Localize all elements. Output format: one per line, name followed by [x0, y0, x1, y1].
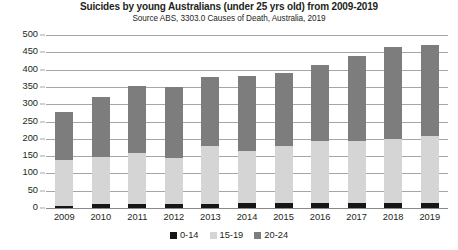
x-axis-tick-label: 2017 — [338, 212, 375, 223]
legend-swatch-icon — [254, 232, 261, 239]
bar-segment-20-24[interactable] — [311, 65, 329, 140]
chart-subtitle: Source ABS, 3303.0 Causes of Death, Aust… — [0, 13, 458, 24]
x-axis-tick-label: 2011 — [119, 212, 156, 223]
bar-segment-15-19[interactable] — [55, 160, 73, 205]
bar-segment-0-14[interactable] — [238, 203, 256, 208]
bar-segment-20-24[interactable] — [421, 45, 439, 136]
suicides-stacked-bar-chart: Suicides by young Australians (under 25 … — [0, 0, 458, 250]
legend-label: 15-19 — [220, 231, 244, 240]
y-axis-tick-label: 350 — [0, 82, 38, 91]
x-axis-tick-label: 2013 — [192, 212, 229, 223]
bar-group[interactable] — [201, 35, 219, 208]
y-axis-labels: 050100150200250300350400450500 — [0, 35, 38, 208]
y-axis-tick-label: 400 — [0, 65, 38, 74]
bar-group[interactable] — [165, 35, 183, 208]
legend-item-0-14[interactable]: 0-14 — [170, 231, 199, 240]
bar-segment-15-19[interactable] — [421, 136, 439, 202]
legend-item-20-24[interactable]: 20-24 — [254, 231, 288, 240]
x-axis-tick-label: 2018 — [375, 212, 412, 223]
x-axis-tick-label: 2012 — [156, 212, 193, 223]
chart-title-block: Suicides by young Australians (under 25 … — [0, 1, 458, 24]
y-axis-tick — [40, 190, 45, 191]
bar-segment-0-14[interactable] — [384, 203, 402, 208]
bar-segment-15-19[interactable] — [201, 146, 219, 204]
bar-segment-0-14[interactable] — [275, 203, 293, 208]
legend-swatch-icon — [170, 232, 177, 239]
y-axis-tick-label: 150 — [0, 151, 38, 160]
y-axis-tick — [40, 69, 45, 70]
bar-segment-15-19[interactable] — [238, 151, 256, 203]
bar-segment-15-19[interactable] — [384, 139, 402, 203]
bar-group[interactable] — [275, 35, 293, 208]
bar-segment-15-19[interactable] — [128, 153, 146, 204]
legend-swatch-icon — [210, 232, 217, 239]
bar-segment-20-24[interactable] — [165, 87, 183, 158]
bar-series-container — [46, 35, 448, 208]
y-axis-tick — [40, 208, 45, 209]
bar-group[interactable] — [311, 35, 329, 208]
gridline-0 — [46, 208, 448, 209]
y-axis-tick — [40, 138, 45, 139]
bar-segment-20-24[interactable] — [55, 112, 73, 160]
y-axis-tick-label: 0 — [0, 203, 38, 212]
bar-segment-0-14[interactable] — [311, 203, 329, 208]
bar-group[interactable] — [238, 35, 256, 208]
bar-segment-0-14[interactable] — [55, 206, 73, 208]
bar-segment-20-24[interactable] — [384, 47, 402, 139]
x-axis-tick-label: 2019 — [411, 212, 448, 223]
y-axis-tick-label: 450 — [0, 48, 38, 57]
legend-label: 0-14 — [180, 231, 199, 240]
y-axis-tick-label: 300 — [0, 100, 38, 109]
y-axis-tick — [40, 121, 45, 122]
bar-segment-20-24[interactable] — [128, 86, 146, 152]
bar-segment-15-19[interactable] — [165, 158, 183, 204]
bar-group[interactable] — [128, 35, 146, 208]
y-axis-tick — [40, 86, 45, 87]
x-axis-tick-label: 2010 — [83, 212, 120, 223]
page-title: Suicides by young Australians (under 25 … — [0, 1, 458, 13]
y-axis-tick-label: 500 — [0, 30, 38, 39]
bar-segment-0-14[interactable] — [128, 204, 146, 208]
bar-segment-20-24[interactable] — [201, 77, 219, 146]
bar-segment-15-19[interactable] — [92, 157, 110, 204]
bar-segment-0-14[interactable] — [421, 203, 439, 208]
legend-label: 20-24 — [264, 231, 288, 240]
y-axis-tick — [40, 104, 45, 105]
y-axis-tick — [40, 52, 45, 53]
bar-segment-20-24[interactable] — [238, 76, 256, 151]
bar-segment-15-19[interactable] — [275, 146, 293, 203]
plot-area — [46, 35, 448, 208]
bar-segment-20-24[interactable] — [348, 56, 366, 141]
x-axis-tick-label: 2009 — [46, 212, 83, 223]
x-axis-tick-label: 2016 — [302, 212, 339, 223]
y-axis-tick-label: 100 — [0, 169, 38, 178]
y-axis-tick — [40, 156, 45, 157]
y-axis-tick-label: 50 — [0, 186, 38, 195]
bar-group[interactable] — [92, 35, 110, 208]
bar-group[interactable] — [55, 35, 73, 208]
bar-segment-0-14[interactable] — [348, 203, 366, 208]
y-axis-tick-label: 200 — [0, 134, 38, 143]
bar-group[interactable] — [348, 35, 366, 208]
x-axis-tick-label: 2014 — [229, 212, 266, 223]
bar-segment-0-14[interactable] — [92, 204, 110, 208]
bar-segment-15-19[interactable] — [348, 141, 366, 204]
bar-segment-15-19[interactable] — [311, 141, 329, 203]
x-axis-labels: 2009201020112012201320142015201620172018… — [46, 212, 448, 226]
bar-segment-20-24[interactable] — [275, 73, 293, 146]
y-axis-tick-label: 250 — [0, 117, 38, 126]
bar-segment-0-14[interactable] — [165, 204, 183, 208]
y-axis-tick — [40, 173, 45, 174]
bar-segment-0-14[interactable] — [201, 204, 219, 208]
bar-segment-20-24[interactable] — [92, 97, 110, 157]
bar-group[interactable] — [384, 35, 402, 208]
bar-group[interactable] — [421, 35, 439, 208]
x-axis-tick-label: 2015 — [265, 212, 302, 223]
y-axis-tick — [40, 35, 45, 36]
legend-item-15-19[interactable]: 15-19 — [210, 231, 244, 240]
chart-legend: 0-1415-1920-24 — [0, 231, 458, 240]
